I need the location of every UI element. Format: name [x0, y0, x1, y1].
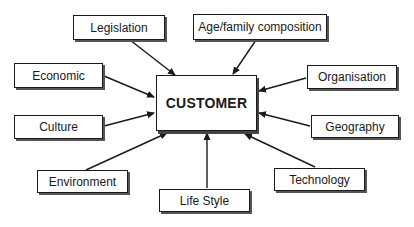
factor-box-technology-label: Technology — [289, 173, 350, 187]
factor-box-organisation: Organisation — [307, 65, 397, 89]
arrow-geography-to-customer — [259, 113, 310, 126]
factor-box-technology: Technology — [274, 168, 365, 191]
arrow-culture-to-customer — [104, 113, 154, 126]
factor-box-age-family-label: Age/family composition — [198, 20, 321, 34]
arrow-age-family-to-customer — [233, 40, 256, 74]
factor-box-environment: Environment — [37, 170, 128, 193]
factor-box-economic: Economic — [14, 63, 103, 88]
factor-box-age-family: Age/family composition — [193, 14, 327, 40]
factor-box-organisation-label: Organisation — [318, 70, 386, 84]
arrow-organisation-to-customer — [259, 78, 306, 91]
factor-box-legislation-label: Legislation — [90, 21, 147, 35]
factor-box-legislation: Legislation — [73, 15, 165, 40]
factor-box-geography-label: Geography — [325, 120, 384, 134]
factor-box-economic-label: Economic — [32, 69, 85, 83]
arrow-legislation-to-customer — [130, 40, 175, 75]
arrow-economic-to-customer — [104, 76, 154, 97]
factor-box-life-style-label: Life Style — [180, 194, 229, 208]
factor-box-life-style: Life Style — [159, 189, 250, 212]
factor-box-culture-label: Culture — [39, 120, 78, 134]
factor-box-geography: Geography — [311, 115, 399, 138]
customer-box: CUSTOMER — [156, 75, 257, 131]
customer-box-label: CUSTOMER — [166, 95, 247, 111]
arrow-technology-to-customer — [245, 134, 315, 167]
influence-diagram: LegislationAge/family compositionEconomi… — [0, 0, 414, 227]
factor-box-environment-label: Environment — [49, 175, 116, 189]
factor-box-culture: Culture — [14, 115, 103, 139]
